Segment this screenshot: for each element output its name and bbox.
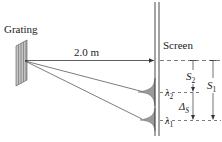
diffraction-diagram: Grating 2.0 m Screen λ2 λ1 S2 ΔS S1 [0, 0, 222, 142]
lambda2-label: λ2 [164, 87, 174, 101]
ray-lambda2 [25, 61, 144, 92]
peak-lambda2 [138, 78, 155, 106]
lambda1-label: λ1 [164, 115, 174, 129]
peak-lambda1 [140, 108, 155, 131]
distance-label: 2.0 m [74, 46, 100, 58]
ray-lambda1 [25, 61, 142, 119]
grating [16, 40, 27, 86]
screen-label: Screen [163, 39, 193, 51]
delta-s-label: ΔS [178, 101, 189, 115]
grating-label: Grating [4, 23, 38, 35]
screen [155, 2, 159, 136]
